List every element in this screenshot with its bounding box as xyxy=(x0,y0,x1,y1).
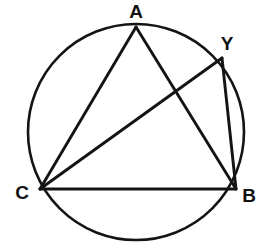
circumscribed-circle xyxy=(28,24,244,240)
vertex-label-c: C xyxy=(15,182,29,203)
geometry-canvas: A Y B C xyxy=(0,0,265,247)
vertex-label-b: B xyxy=(242,185,256,206)
vertex-label-y: Y xyxy=(221,33,234,54)
segment-a-c xyxy=(40,27,136,189)
vertex-label-a: A xyxy=(129,1,143,22)
geometry-figure: A Y B C xyxy=(0,0,265,247)
